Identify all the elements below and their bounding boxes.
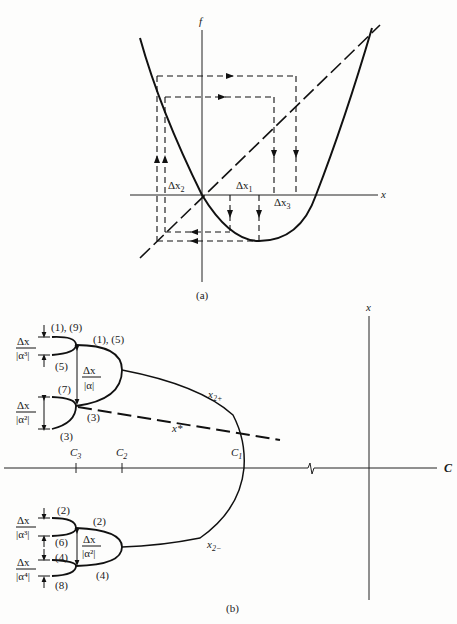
label-4a: (4) — [55, 551, 68, 564]
fraction-a3-bot: Δx |α³| — [16, 514, 36, 540]
c-axis-label: C — [444, 461, 453, 475]
cobweb-arrows — [154, 73, 299, 244]
figure: f x — [0, 0, 457, 624]
panel-a: f x — [130, 15, 386, 302]
svg-text:|α³|: |α³| — [16, 349, 29, 361]
svg-text:Δx: Δx — [17, 399, 30, 411]
svg-text:|α³|: |α³| — [16, 528, 29, 540]
svg-text:Δx: Δx — [83, 364, 96, 376]
cobweb-paths — [157, 76, 296, 241]
identity-line — [140, 25, 380, 258]
panel-b: x C C3 C2 C1 — [4, 301, 453, 615]
xstar-label: x* — [171, 422, 183, 434]
panel-b-caption: (b) — [226, 602, 239, 615]
c2-tick-label: C2 — [116, 446, 127, 461]
dx3-label: Δx3 — [274, 196, 291, 211]
axis-break — [308, 463, 314, 474]
fraction-a3-top: Δx |α³| — [16, 335, 36, 361]
label-7: (7) — [58, 383, 71, 396]
label-2b: (2) — [93, 515, 106, 528]
label-2a: (2) — [57, 504, 70, 517]
label-6: (6) — [55, 536, 68, 549]
c3-tick-label: C3 — [70, 446, 81, 461]
dx1-label: Δx1 — [236, 179, 253, 194]
fraction-a2-top: Δx |α²| — [16, 399, 36, 425]
parabola-curve — [140, 28, 372, 241]
upper-8-cycle-bot — [52, 397, 76, 429]
svg-text:Δx: Δx — [17, 556, 30, 568]
svg-text:Δx: Δx — [17, 335, 30, 347]
fraction-a2-bot: Δx |α²| — [82, 533, 101, 559]
label-1-5: (1), (5) — [93, 333, 124, 346]
x2minus-label: x2− — [206, 538, 221, 553]
label-3a: (3) — [87, 411, 100, 424]
fraction-a4-bot: Δx |α⁴| — [16, 556, 36, 582]
x2-plus-branch — [122, 370, 244, 468]
label-8: (8) — [55, 579, 68, 592]
label-3b: (3) — [60, 430, 73, 443]
fraction-a1: Δx |α| — [82, 364, 101, 391]
panel-a-caption: (a) — [196, 289, 209, 302]
upper-8-cycle-top — [52, 337, 76, 355]
x-axis-label-a: x — [380, 188, 386, 200]
svg-text:|α²|: |α²| — [82, 547, 95, 559]
svg-text:Δx: Δx — [17, 514, 30, 526]
lower-8-cycle-top — [52, 518, 76, 536]
svg-text:Δx: Δx — [83, 533, 96, 545]
x2plus-label: x2+ — [207, 388, 222, 403]
c1-tick-label: C1 — [231, 446, 242, 461]
x2-minus-branch — [122, 468, 244, 547]
label-1-9: (1), (9) — [51, 321, 82, 334]
f-axis-label: f — [199, 15, 204, 27]
x-axis-label-b: x — [365, 301, 371, 313]
dx2-label: Δx2 — [168, 179, 185, 194]
svg-text:|α⁴|: |α⁴| — [16, 570, 30, 582]
label-5: (5) — [55, 360, 68, 373]
svg-text:|α|: |α| — [84, 379, 94, 391]
svg-text:|α²|: |α²| — [16, 413, 29, 425]
label-4b: (4) — [96, 569, 109, 582]
